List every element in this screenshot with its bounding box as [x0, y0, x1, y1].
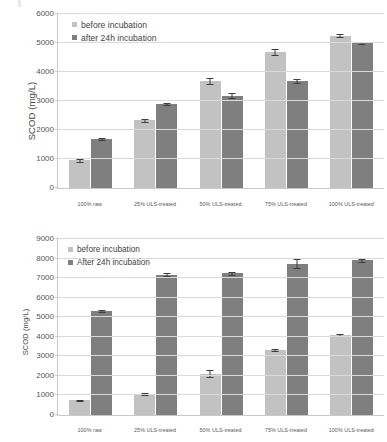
bar: [156, 104, 177, 188]
y-tick-mark: [55, 42, 58, 43]
y-tick-mark: [55, 394, 58, 395]
gridline: [58, 414, 384, 415]
error-bar-cap-bottom: [272, 55, 279, 56]
bar: [69, 400, 90, 415]
legend-label-after: after 24h incubation: [81, 32, 157, 44]
y-tick-label: 6000: [36, 292, 54, 301]
bar-group: [254, 239, 319, 415]
error-bar-cap-top: [337, 34, 344, 35]
y-tick-mark: [55, 258, 58, 259]
y-axis-label-bottom: SCOD (mg/L): [21, 308, 30, 355]
y-tick-mark: [55, 13, 58, 14]
error-bar-cap-top: [98, 138, 105, 139]
legend-swatch-before-icon: [68, 247, 73, 252]
gridline: [58, 158, 384, 159]
x-axis-label: 50% ULS-treated: [188, 427, 253, 433]
bar: [91, 139, 112, 188]
error-bar-cap-top: [76, 159, 83, 160]
y-tick-mark: [55, 129, 58, 130]
bar: [352, 43, 373, 188]
x-axis-label: 100% ULS-treated: [319, 427, 384, 433]
y-tick-mark: [55, 316, 58, 317]
y-tick-mark: [55, 355, 58, 356]
bar-group: [188, 239, 253, 415]
y-tick-mark: [55, 238, 58, 239]
legend-bottom: before incubation After 24h incubation: [68, 243, 150, 269]
y-tick-label: 2000: [36, 125, 54, 134]
error-bar-cap-top: [229, 272, 236, 273]
legend-item-before-bottom: before incubation: [68, 243, 150, 256]
error-bar-cap-top: [163, 273, 170, 274]
bar-group: [319, 239, 384, 415]
gridline: [58, 336, 384, 337]
error-bar-cap-bottom: [98, 140, 105, 141]
error-bar-cap-top: [294, 79, 301, 80]
bar: [91, 311, 112, 415]
y-tick-label: 1000: [36, 390, 54, 399]
gridline: [58, 394, 384, 395]
bar: [265, 350, 286, 415]
x-axis-label: 100% raw: [57, 427, 122, 433]
bar: [200, 81, 221, 188]
y-tick-label: 1000: [36, 154, 54, 163]
gridline: [58, 238, 384, 239]
bar: [69, 160, 90, 188]
error-bar-cap-bottom: [76, 401, 83, 402]
y-tick-label: 2000: [36, 370, 54, 379]
error-bar-cap-top: [272, 49, 279, 50]
x-axis-label: 50% ULS-treated: [188, 201, 253, 207]
error-bar-cap-bottom: [294, 268, 301, 269]
error-bar-cap-top: [294, 259, 301, 260]
bar: [222, 96, 243, 188]
bar: [352, 260, 373, 415]
y-tick-label: 4000: [36, 67, 54, 76]
bar: [287, 264, 308, 415]
y-tick-label: 3000: [36, 96, 54, 105]
error-bar-cap-bottom: [337, 37, 344, 38]
y-tick-label: 0: [50, 410, 54, 419]
legend-item-after-bottom: After 24h incubation: [68, 256, 150, 269]
y-tick-label: 8000: [36, 253, 54, 262]
legend-top: before incubation after 24h incubation: [72, 18, 157, 44]
bar: [330, 36, 351, 188]
y-tick-label: 6000: [36, 9, 54, 18]
legend-swatch-before-icon: [72, 22, 77, 27]
bar-group: [319, 14, 384, 188]
y-tick-label: 0: [50, 183, 54, 192]
error-bar-cap-top: [207, 78, 214, 79]
x-axis-labels-top: 100% raw25% ULS-treated50% ULS-treated75…: [57, 201, 384, 207]
gridline: [58, 71, 384, 72]
y-tick-label: 5000: [36, 312, 54, 321]
y-axis-label-top: SCOD (mg/L): [26, 81, 37, 140]
gridline: [58, 297, 384, 298]
x-axis-label: 100% raw: [57, 201, 122, 207]
error-bar-cap-bottom: [207, 377, 214, 378]
legend-label-before-bottom: before incubation: [77, 244, 140, 256]
error-bar-cap-bottom: [76, 162, 83, 163]
chart-panel-top: SCOD (mg/L) 0100020003000400050006000 be…: [0, 0, 387, 221]
x-axis-label: 100% ULS-treated: [319, 201, 384, 207]
error-bar-cap-top: [163, 103, 170, 104]
bar-group: [254, 14, 319, 188]
error-bar-cap-top: [207, 370, 214, 371]
legend-item-after: after 24h incubation: [72, 31, 157, 44]
error-bar-cap-top: [272, 349, 279, 350]
error-bar-cap-top: [229, 93, 236, 94]
y-tick-label: 9000: [36, 234, 54, 243]
y-tick-label: 7000: [36, 273, 54, 282]
legend-label-before: before incubation: [81, 19, 147, 31]
y-tick-mark: [55, 375, 58, 376]
legend-swatch-after-icon: [68, 260, 73, 265]
bar: [265, 52, 286, 188]
gridline: [58, 375, 384, 376]
bar: [287, 81, 308, 188]
error-bar-cap-bottom: [229, 275, 236, 276]
bar: [134, 394, 155, 415]
x-axis-label: 25% ULS-treated: [122, 201, 187, 207]
error-bar-cap-bottom: [141, 122, 148, 123]
error-bar-cap-bottom: [207, 84, 214, 85]
error-bar-cap-top: [359, 259, 366, 260]
error-bar-cap-bottom: [359, 262, 366, 263]
y-tick-mark: [55, 277, 58, 278]
error-bar-cap-top: [141, 119, 148, 120]
